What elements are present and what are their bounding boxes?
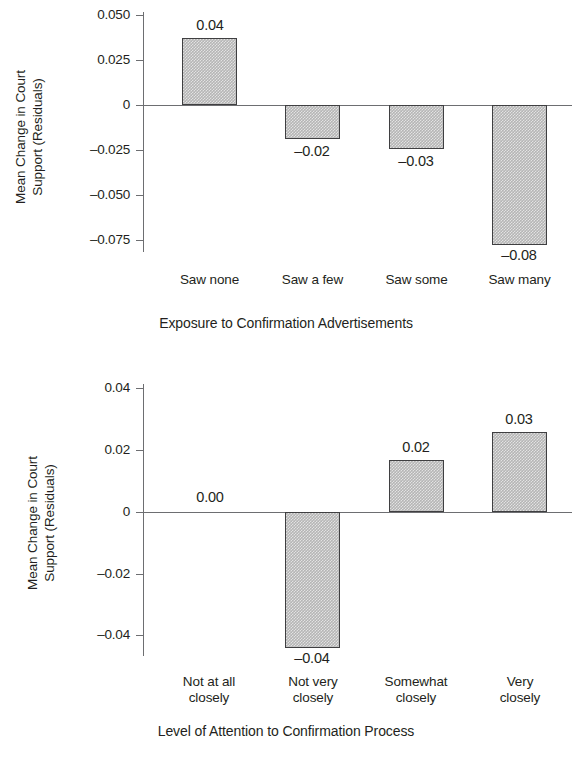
y-tick-bottom-4 [136,635,144,636]
zero-baseline-bottom [143,512,572,513]
y-tick-bottom-3 [136,574,144,575]
y-axis-title-top: Mean Change in Court Support (Residuals) [12,27,46,247]
bar-value-very-closely: 0.03 [478,412,560,427]
y-tick-top-1 [136,60,144,61]
x-category-label-not-very-closely: Not very closely [258,674,368,706]
bar-value-not-very-closely: –0.04 [271,651,353,666]
figure: Mean Change in Court Support (Residuals)… [0,0,572,758]
y-tick-label-top-1: 0.025 [52,53,130,67]
x-category-label-line1: Somewhat [385,674,448,689]
y-tick-label-bottom-4: –0.04 [52,628,130,642]
y-axis-title-line2: Support (Residuals) [29,27,46,247]
y-tick-label-bottom-2: 0 [52,505,130,519]
bar-saw-some [389,105,444,149]
y-axis-title-line1: Mean Change in Court [12,27,29,247]
bar-saw-a-few [285,105,340,139]
y-tick-label-bottom-3: –0.02 [52,567,130,581]
y-tick-label-top-5: –0.075 [52,233,130,247]
x-category-label-line1: Not at all [183,674,235,689]
y-tick-label-top-2: 0 [52,98,130,112]
bar-value-not-at-all-closely: 0.00 [169,490,251,505]
bar-value-saw-none: 0.04 [169,18,251,33]
y-tick-label-top-0: 0.050 [52,8,130,22]
bar-value-saw-a-few: –0.02 [271,144,353,159]
x-category-label-saw-many: Saw many [467,272,572,288]
bar-saw-many [492,105,547,245]
y-axis-title-bottom-line1: Mean Change in Court [24,408,41,638]
x-category-label-line2: closely [293,690,334,705]
x-category-label-line1: Very [507,674,534,689]
x-category-label-not-at-all-closely: Not at all closely [154,674,264,706]
bar-very-closely [492,432,547,512]
x-category-label-saw-some: Saw some [364,272,469,288]
chart-panel-top: Mean Change in Court Support (Residuals)… [0,0,572,360]
y-tick-top-4 [136,195,144,196]
bar-not-very-closely [285,512,340,648]
bar-value-somewhat-closely: 0.02 [375,440,457,455]
x-category-label-line2: closely [189,690,230,705]
y-tick-top-2 [136,105,144,106]
chart-panel-bottom: Mean Change in Court Support (Residuals)… [0,378,572,758]
x-category-label-somewhat-closely: Somewhat closely [361,674,471,706]
y-axis-line-bottom [143,384,144,656]
y-tick-bottom-0 [136,388,144,389]
bar-somewhat-closely [389,460,444,512]
y-tick-label-top-3: –0.025 [52,143,130,157]
x-axis-title-top: Exposure to Confirmation Advertisements [0,315,572,331]
bar-value-saw-many: –0.08 [478,248,560,263]
x-category-label-line1: Not very [288,674,337,689]
x-axis-title-bottom: Level of Attention to Confirmation Proce… [0,723,572,739]
x-category-label-saw-a-few: Saw a few [260,272,365,288]
y-axis-line-top [143,12,144,252]
y-tick-top-0 [136,15,144,16]
bar-value-saw-some: –0.03 [375,154,457,169]
x-category-label-saw-none: Saw none [157,272,262,288]
x-category-label-line2: closely [396,690,437,705]
y-tick-label-top-4: –0.050 [52,188,130,202]
x-category-label-very-closely: Very closely [465,674,572,706]
y-tick-label-bottom-0: 0.04 [52,381,130,395]
y-tick-top-3 [136,150,144,151]
y-tick-bottom-1 [136,450,144,451]
bar-saw-none [182,38,237,105]
y-tick-top-5 [136,240,144,241]
x-category-label-line2: closely [500,690,541,705]
y-tick-bottom-2 [136,512,144,513]
y-tick-label-bottom-1: 0.02 [52,443,130,457]
